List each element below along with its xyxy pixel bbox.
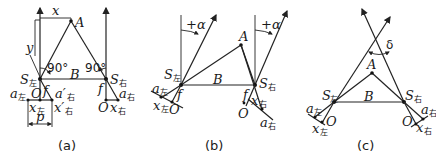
svg-text:y: y — [25, 40, 34, 55]
caption-b: (b) — [205, 138, 223, 153]
svg-text:O: O — [238, 106, 249, 121]
svg-text:f: f — [42, 83, 50, 98]
svg-text:O: O — [326, 114, 337, 129]
svg-text:右: 右 — [65, 106, 73, 116]
svg-text:右: 右 — [67, 92, 75, 102]
svg-text:+α: +α — [261, 17, 281, 32]
svg-text:a: a — [260, 115, 268, 130]
left-convergent-axis — [335, 17, 390, 102]
svg-text:x: x — [52, 3, 60, 18]
caption-c: (c) — [357, 138, 374, 153]
svg-text:右: 右 — [424, 126, 432, 136]
svg-text:右: 右 — [268, 82, 276, 92]
svg-text:A: A — [238, 29, 248, 44]
svg-text:A: A — [366, 57, 376, 72]
svg-text:B: B — [69, 67, 80, 82]
svg-text:S: S — [20, 72, 29, 87]
stereo-geometry-diagram: x A y 90° 90° B S 左 S 右 a 左 O f a′ 右 x 左… — [0, 0, 436, 158]
svg-text:δ: δ — [386, 38, 393, 52]
svg-text:B: B — [363, 89, 374, 104]
panel-c: δ A B S 左 S 右 a 左 O x 左 a 右 O x 右 (c) — [306, 9, 436, 153]
svg-text:x′: x′ — [54, 100, 64, 115]
point-A — [69, 19, 73, 23]
svg-text:右: 右 — [259, 99, 267, 109]
svg-text:a′: a′ — [55, 86, 66, 101]
svg-text:A: A — [74, 15, 84, 30]
svg-text:左: 左 — [160, 87, 168, 97]
svg-text:O: O — [169, 102, 180, 117]
svg-text:a: a — [119, 86, 127, 101]
panel-a: x A y 90° 90° B S 左 S 右 a 左 O f a′ 右 x 左… — [10, 3, 135, 153]
svg-text:f: f — [176, 87, 184, 102]
svg-text:左: 左 — [161, 104, 169, 114]
svg-text:a: a — [10, 86, 18, 101]
svg-text:B: B — [212, 72, 223, 87]
delta-arc — [369, 52, 389, 55]
svg-text:左: 左 — [330, 94, 338, 104]
svg-text:右: 右 — [268, 121, 276, 131]
svg-text:S: S — [110, 72, 119, 87]
svg-text:S: S — [259, 76, 268, 91]
svg-text:a: a — [421, 102, 429, 117]
svg-text:左: 左 — [320, 127, 328, 137]
svg-text:左: 左 — [314, 107, 322, 117]
svg-text:p: p — [36, 109, 45, 124]
svg-text:右: 右 — [127, 92, 135, 102]
svg-text:O: O — [402, 114, 413, 129]
svg-text:S: S — [164, 67, 173, 82]
svg-text:S: S — [405, 88, 414, 103]
svg-text:左: 左 — [18, 92, 26, 102]
svg-text:90°: 90° — [85, 61, 106, 75]
svg-text:a: a — [152, 81, 160, 96]
svg-text:x: x — [110, 100, 118, 115]
svg-text:O: O — [98, 100, 109, 115]
svg-text:x: x — [416, 120, 424, 135]
panel-b: +α +α A B S 左 S 右 f a 左 x 左 O f x 右 O a … — [151, 11, 287, 153]
svg-text:f: f — [97, 81, 105, 96]
svg-text:a: a — [306, 101, 314, 116]
svg-text:x: x — [251, 93, 259, 108]
svg-text:O: O — [31, 86, 42, 101]
svg-text:90°: 90° — [47, 61, 68, 75]
svg-text:x: x — [312, 121, 320, 136]
caption-a: (a) — [58, 138, 76, 153]
svg-text:+α: +α — [186, 17, 206, 32]
svg-text:右: 右 — [429, 108, 436, 118]
svg-text:左: 左 — [173, 73, 181, 83]
svg-text:x: x — [153, 98, 161, 113]
svg-text:右: 右 — [118, 106, 126, 116]
